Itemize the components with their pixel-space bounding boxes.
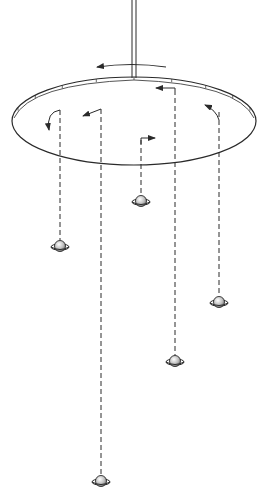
direction-arrow-icon xyxy=(48,110,60,130)
direction-arrow-icon xyxy=(205,105,219,120)
saturn-icon xyxy=(132,196,150,207)
saturn-icon xyxy=(92,476,110,487)
hanging-string-1 xyxy=(48,110,69,252)
saturn-icon xyxy=(210,297,228,308)
hanging-string-4 xyxy=(156,88,184,367)
saturn-icon xyxy=(51,241,69,252)
mobile-diagram xyxy=(0,0,268,503)
hanging-string-2 xyxy=(83,109,110,487)
saturn-icon xyxy=(166,356,184,367)
caption-fragment xyxy=(100,496,268,503)
direction-arrow-icon xyxy=(141,138,155,144)
direction-arrow-icon xyxy=(156,88,175,90)
hanging-string-3 xyxy=(132,138,155,207)
diagram-canvas xyxy=(0,0,268,503)
shaft xyxy=(132,0,136,78)
strings xyxy=(48,88,228,487)
hanging-string-5 xyxy=(205,105,228,308)
direction-arrow-icon xyxy=(83,109,101,116)
